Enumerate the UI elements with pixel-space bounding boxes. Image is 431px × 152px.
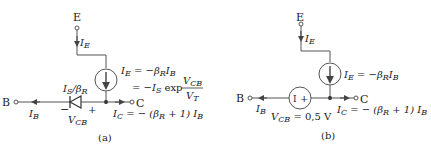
node-b-label: B [2, 96, 10, 109]
ib-label: IB [28, 108, 39, 121]
wire-emitter [301, 26, 330, 62]
wire-emitter [77, 30, 106, 68]
ic-equation: IC = − (βR + 1) IB [336, 104, 427, 117]
diode-icon [70, 96, 81, 108]
plus-sign: + [88, 104, 96, 115]
node-b-terminal [14, 100, 18, 104]
ie-equation: IE = −βRIB [343, 69, 399, 82]
panel-b: E IE IE = −βRIB B IB I + C VCB = 0,5 V I… [236, 11, 427, 141]
exp-equation: = −IS exp [132, 82, 183, 95]
caption-a: (a) [98, 132, 112, 143]
ie-equation: IE = −βRIB [120, 65, 176, 78]
fraction-denominator: VT [186, 90, 199, 103]
voltage-source-plus: + [300, 93, 308, 104]
vcb-label: VCB [68, 114, 87, 127]
node-c-terminal [130, 100, 134, 104]
node-b-label: B [236, 92, 244, 105]
panel-a: E IE B IB C IS/βR − + VCB IE = −βRIB = −… [2, 11, 203, 143]
fraction-numerator: VCB [183, 75, 202, 88]
node-c-terminal [354, 96, 358, 100]
vcb-label: VCB = 0,5 V [271, 111, 332, 124]
node-e-label: E [73, 11, 81, 24]
ie-label: IE [79, 37, 90, 50]
node-b-terminal [248, 96, 252, 100]
circuit-diagram: E IE B IB C IS/βR − + VCB IE = −βRIB = −… [0, 0, 431, 152]
caption-b: (b) [321, 130, 335, 141]
ie-label: IE [304, 33, 315, 46]
ic-equation: IC = − (βR + 1) IB [112, 108, 203, 121]
node-e-terminal [75, 26, 79, 30]
voltage-source-minus: I [293, 94, 297, 104]
diode-label: IS/βR [62, 83, 88, 96]
ib-label: IB [255, 103, 266, 116]
